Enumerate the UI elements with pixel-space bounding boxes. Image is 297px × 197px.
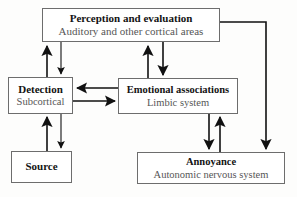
node-perception-subtitle: Auditory and other cortical areas [59,26,204,38]
node-emotional-associations[interactable]: Emotional associations Limbic system [118,78,238,114]
node-emotional-title: Emotional associations [127,84,229,95]
node-emotional-subtitle: Limbic system [147,97,209,108]
node-detection-title: Detection [18,84,63,96]
node-source-title: Source [25,161,57,173]
node-detection-subtitle: Subcortical [17,96,65,107]
node-detection[interactable]: Detection Subcortical [8,77,73,114]
node-annoyance-subtitle: Autonomic nervous system [154,169,269,180]
node-annoyance[interactable]: Annoyance Autonomic nervous system [137,152,285,184]
node-perception-title: Perception and evaluation [70,13,193,25]
diagram-canvas: Perception and evaluation Auditory and o… [0,0,297,197]
node-annoyance-title: Annoyance [186,156,236,167]
node-source[interactable]: Source [11,151,72,183]
node-perception[interactable]: Perception and evaluation Auditory and o… [42,8,220,42]
